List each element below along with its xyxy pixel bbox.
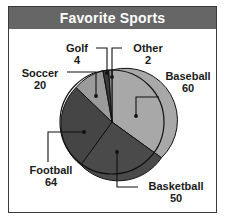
leader-line-golf: [96, 48, 107, 73]
leader-dot-other: [110, 75, 114, 79]
leader-dot-soccer: [94, 94, 98, 98]
leader-dot-baseball: [134, 114, 138, 118]
slice-label-basketball: Basketball 50: [140, 180, 212, 204]
slice-label-soccer-name: Soccer: [22, 67, 59, 79]
slice-label-basketball-name: Basketball: [148, 180, 203, 192]
slice-label-soccer-value: 20: [14, 79, 66, 91]
slice-label-basketball-value: 50: [140, 192, 212, 204]
slice-label-soccer: Soccer 20: [14, 67, 66, 91]
slice-label-golf: Golf 4: [57, 42, 97, 66]
slice-label-other: Other 2: [125, 42, 171, 66]
leader-dot-football: [82, 130, 86, 134]
slice-label-baseball-name: Baseball: [165, 70, 210, 82]
leader-dot-golf: [105, 71, 109, 75]
slice-label-football: Football 64: [20, 164, 82, 188]
pie-chart-figure: Favorite Sports: [0, 0, 225, 221]
slice-label-baseball: Baseball 60: [160, 70, 216, 94]
slice-label-baseball-value: 60: [160, 82, 216, 94]
slice-label-football-name: Football: [30, 164, 73, 176]
slice-label-other-value: 2: [125, 54, 171, 66]
slice-label-golf-name: Golf: [66, 42, 88, 54]
slice-label-football-value: 64: [20, 176, 82, 188]
slice-label-other-name: Other: [133, 42, 162, 54]
slice-label-golf-value: 4: [57, 54, 97, 66]
leader-dot-basketball: [115, 150, 119, 154]
